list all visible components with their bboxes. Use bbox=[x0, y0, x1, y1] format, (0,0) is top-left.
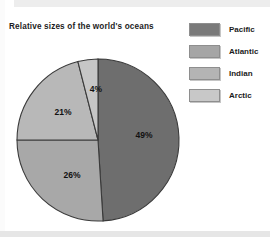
legend-swatch-pacific bbox=[189, 23, 220, 36]
legend-swatch-indian bbox=[189, 67, 220, 80]
legend-label-atlantic: Atlantic bbox=[229, 47, 258, 56]
legend-label-indian: Indian bbox=[229, 69, 253, 78]
slice-value-indian: 21% bbox=[54, 107, 71, 117]
scan-edge-left bbox=[0, 0, 5, 237]
slice-value-atlantic: 26% bbox=[63, 170, 80, 180]
legend-label-arctic: Arctic bbox=[229, 91, 252, 100]
slice-value-arctic: 4% bbox=[90, 84, 103, 94]
legend-item-atlantic[interactable]: Atlantic bbox=[189, 40, 267, 62]
legend-swatch-arctic bbox=[189, 89, 220, 102]
scan-band-bottom bbox=[0, 231, 270, 237]
legend-item-pacific[interactable]: Pacific bbox=[189, 18, 267, 40]
slice-value-pacific: 49% bbox=[135, 130, 152, 140]
legend-swatch-atlantic bbox=[189, 45, 220, 58]
legend-label-pacific: Pacific bbox=[229, 25, 255, 34]
scan-band-top bbox=[14, 0, 270, 7]
chart-page: Relative sizes of the world's oceans 49%… bbox=[0, 0, 270, 237]
page-title: Relative sizes of the world's oceans bbox=[9, 22, 154, 31]
pie-slice-atlantic[interactable] bbox=[17, 140, 103, 221]
legend-item-indian[interactable]: Indian bbox=[189, 62, 267, 84]
pie-chart-svg: 49% 26% 21% 4% bbox=[14, 56, 182, 224]
chart-legend: Pacific Atlantic Indian Arctic bbox=[189, 18, 267, 106]
pie-chart: 49% 26% 21% 4% bbox=[14, 56, 182, 224]
legend-item-arctic[interactable]: Arctic bbox=[189, 84, 267, 106]
